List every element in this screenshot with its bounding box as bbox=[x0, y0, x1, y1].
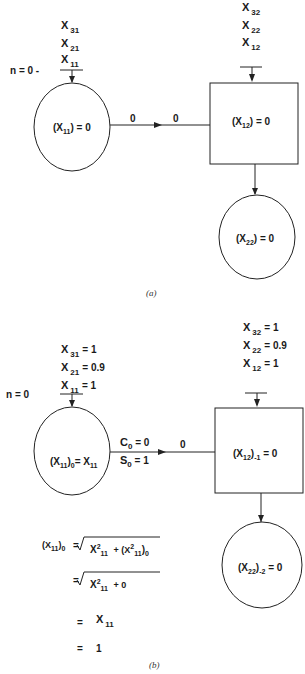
input-label-b1-1: X21 = 0.9 bbox=[61, 362, 105, 373]
node-a1-label: (X11) = 0 bbox=[53, 123, 91, 135]
arrowhead-a1-a2 bbox=[154, 122, 162, 128]
input-label-b2-0: X32 = 1 bbox=[243, 322, 279, 333]
edge-label-a-left: 0 bbox=[130, 114, 136, 124]
node-a3-label: (X22) = 0 bbox=[236, 234, 274, 246]
arrowhead-b2-down bbox=[254, 399, 260, 407]
input-label-a1-2: X11 bbox=[61, 54, 79, 65]
input-label-a1-1: X21 bbox=[61, 38, 79, 49]
derivation-line1-terms: X211 + (X211)0 bbox=[90, 543, 149, 557]
input-label-a2-0: X32 bbox=[242, 2, 260, 13]
input-label-a1-0: X31 bbox=[61, 20, 79, 31]
arrowhead-a3-down bbox=[252, 188, 258, 195]
derivation-line3-term: X11 bbox=[96, 614, 114, 625]
derivation-lhs: (X11)0 bbox=[42, 541, 65, 552]
caption-a: (a) bbox=[146, 288, 157, 298]
edge-label-b-right: 0 bbox=[180, 440, 186, 450]
caption-b: (b) bbox=[149, 660, 160, 670]
input-label-b2-1: X22 = 0.9 bbox=[243, 340, 287, 351]
node-b1-circle bbox=[34, 407, 110, 495]
input-label-b1-0: X31 = 1 bbox=[61, 344, 97, 355]
node-a2-label: (X12) = 0 bbox=[232, 117, 270, 129]
arrowhead-a1-down bbox=[69, 76, 75, 83]
input-label-a2-2: X12 bbox=[242, 37, 260, 48]
derivation-eq-3: = bbox=[77, 618, 83, 628]
node-b1-label: (X11)0= X11 bbox=[50, 457, 97, 469]
arrowhead-b3-down bbox=[258, 515, 264, 522]
derivation-eq-1: = bbox=[73, 541, 79, 551]
iteration-label-b: n = 0 bbox=[6, 390, 29, 400]
input-label-b1-2: X11 = 1 bbox=[61, 380, 96, 391]
derivation-eq-2: = bbox=[73, 576, 79, 586]
edge-label-c0: C0 = 0 bbox=[120, 437, 149, 448]
input-label-b2-2: X12 = 1 bbox=[243, 358, 279, 369]
node-b2-label: (X12)-1 = 0 bbox=[233, 449, 277, 461]
arrowhead-b1-down bbox=[69, 400, 75, 407]
edge-label-a-right: 0 bbox=[173, 114, 179, 124]
derivation-line4-value: 1 bbox=[96, 644, 102, 654]
node-b3-label: (X22)-2 = 0 bbox=[238, 563, 282, 575]
iteration-label-a: n = 0 - bbox=[10, 66, 39, 76]
input-label-a2-1: X22 bbox=[242, 20, 260, 31]
arrowhead-b1-b2 bbox=[158, 449, 166, 455]
edge-label-s0: S0 = 1 bbox=[120, 455, 149, 466]
derivation-eq-4: = bbox=[77, 644, 83, 654]
derivation-line2-terms: X211 + 0 bbox=[90, 578, 126, 592]
arrowhead-a2-down bbox=[249, 74, 255, 82]
